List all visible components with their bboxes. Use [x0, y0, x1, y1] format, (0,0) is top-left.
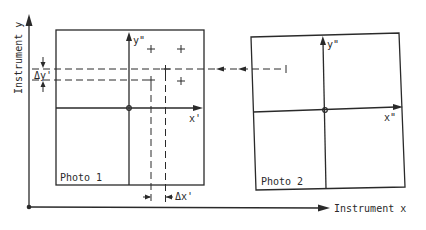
transfer-arrowhead-icon [238, 67, 246, 72]
instrument-x-axis [29, 207, 322, 208]
photo-1-y-label: y" [133, 35, 145, 46]
plus-mark [177, 77, 185, 85]
delta-y-label: Δy' [34, 70, 52, 81]
measurement-lines [32, 65, 286, 205]
instrument-y-label: Instrument y [13, 22, 24, 94]
instrument-x-arrowhead-icon [318, 205, 330, 212]
instrument-origin-dot [27, 205, 32, 210]
dy-up-arrowhead-icon [41, 81, 46, 87]
photogrammetry-diagram: Instrument y Instrument x y" x' Photo 1 [0, 0, 426, 230]
dx-right-arrowhead-icon [145, 195, 151, 200]
photo-2-y-label: y" [327, 39, 339, 50]
photo-2-x-label: x" [384, 112, 396, 123]
delta-y-marker: Δy' [34, 57, 52, 92]
plus-mark [147, 45, 155, 53]
photo-1-x-label: x' [189, 113, 201, 124]
photo-2-y-arrowhead-icon [320, 36, 326, 45]
photo-1-x-arrowhead-icon [193, 105, 203, 111]
instrument-axes: Instrument y Instrument x [13, 14, 406, 214]
plus-mark [177, 45, 185, 53]
instrument-x-label: Instrument x [334, 203, 406, 214]
plus-mark [147, 76, 155, 84]
photo-1-y-arrowhead-icon [126, 32, 132, 41]
dx-left-arrowhead-icon [166, 195, 172, 200]
photo-2-label: Photo 2 [261, 176, 303, 187]
photo-1: y" x' Photo 1 [56, 30, 204, 185]
photo-1-label: Photo 1 [60, 172, 102, 183]
photo-2-y-axis [323, 42, 326, 189]
delta-x-label: Δx' [175, 191, 193, 202]
photo-2: y" x" Photo 2 [251, 33, 405, 190]
instrument-y-arrowhead-icon [26, 14, 33, 26]
dy-down-arrowhead-icon [41, 62, 46, 68]
transfer-arrowhead-icon [216, 67, 224, 72]
